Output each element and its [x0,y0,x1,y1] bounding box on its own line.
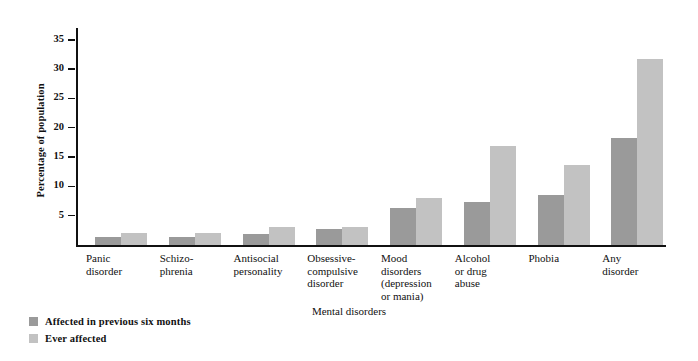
bar [390,208,416,245]
y-axis-tick-label: 35 [36,34,64,45]
y-axis-tick [68,156,75,158]
y-axis-tick [68,39,75,41]
bar [416,198,442,245]
bar [637,59,663,246]
y-axis-tick [68,127,75,129]
legend-item-ever-affected: Ever affected [29,331,191,346]
x-axis-category-label: Anydisorder [602,252,694,277]
bar [95,237,121,245]
bar-group [309,28,383,245]
bar-group [88,28,162,245]
bar [464,202,490,245]
bar-group [604,28,678,245]
y-axis-tick-label: 10 [36,180,64,191]
bar-group [531,28,605,245]
bar [316,229,342,245]
bar [342,227,368,245]
y-axis-tick [68,68,75,70]
y-axis-tick [68,215,75,217]
legend-swatch-dark-icon [29,317,38,326]
legend-label: Affected in previous six months [45,316,191,327]
bar [269,227,295,245]
bar [121,233,147,245]
bar-group [236,28,310,245]
chart-legend: Affected in previous six months Ever aff… [29,314,191,348]
bar-group [383,28,457,245]
y-axis-tick-label: 5 [36,210,64,221]
legend-label: Ever affected [45,333,107,344]
x-axis-line [76,245,666,247]
bar [564,165,590,245]
bar [243,234,269,245]
bar-group [457,28,531,245]
bar [611,138,637,245]
y-axis-tick [68,98,75,100]
bar-chart-figure: Percentage of population 5101520253035 P… [0,0,698,361]
bar [538,195,564,245]
y-axis-tick-label: 15 [36,151,64,162]
bar-group [162,28,236,245]
bar [195,233,221,245]
y-axis-tick [68,186,75,188]
y-axis-line [76,28,78,246]
bar [169,237,195,245]
y-axis-tick-label: 30 [36,63,64,74]
legend-swatch-light-icon [29,334,38,343]
plot-area: 5101520253035 [76,28,666,246]
y-axis-tick-label: 20 [36,122,64,133]
bar [490,146,516,245]
y-axis-tick-label: 25 [36,92,64,103]
legend-item-previous-six-months: Affected in previous six months [29,314,191,329]
